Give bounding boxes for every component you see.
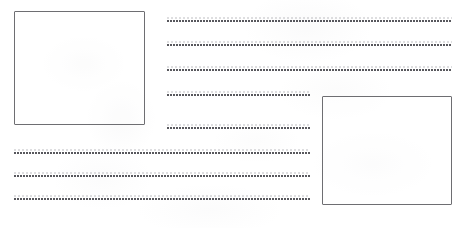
worksheet-page	[0, 0, 466, 228]
writing-line-2[interactable]	[167, 44, 452, 46]
writing-line-5[interactable]	[167, 127, 310, 129]
right-drawing-box[interactable]	[322, 96, 452, 205]
writing-line-1[interactable]	[167, 20, 452, 22]
writing-line-6[interactable]	[14, 152, 310, 154]
left-drawing-box[interactable]	[14, 11, 145, 125]
writing-line-3[interactable]	[167, 69, 452, 71]
writing-line-7[interactable]	[14, 175, 310, 177]
writing-line-8[interactable]	[14, 198, 310, 200]
writing-line-4[interactable]	[167, 94, 310, 96]
